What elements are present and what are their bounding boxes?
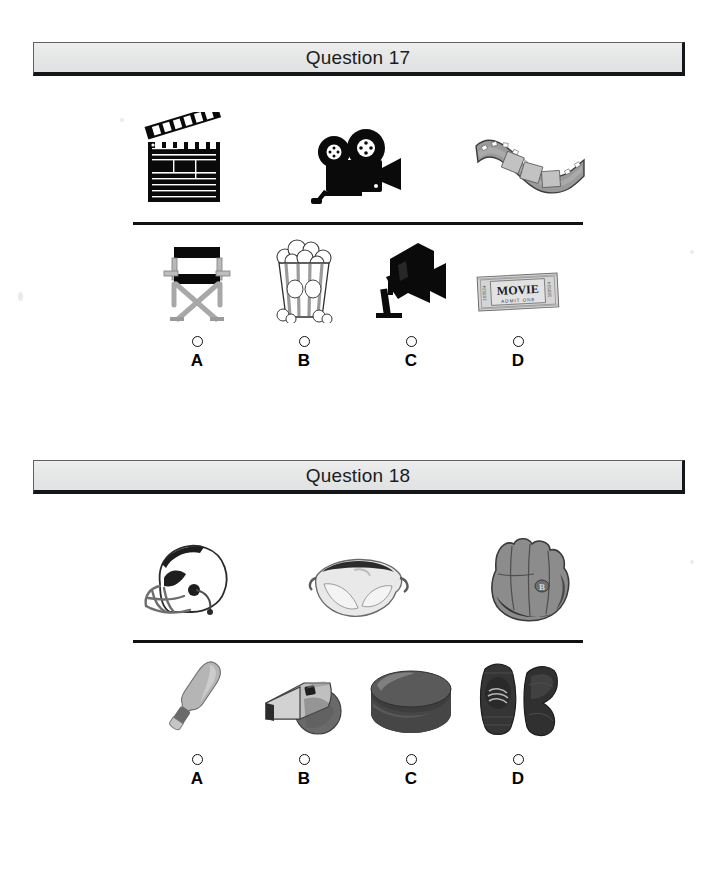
option-B[interactable]: B <box>251 655 358 787</box>
option-art-baseball-bat <box>160 655 234 741</box>
svg-text:163524: 163524 <box>546 281 552 297</box>
football-helmet-icon <box>134 534 238 626</box>
answer-bubble-A[interactable] <box>192 336 203 347</box>
prompt-item-film-strip <box>470 108 590 208</box>
prompt-item-safety-goggles <box>298 526 418 626</box>
option-letter-D: D <box>512 770 525 787</box>
option-D[interactable]: D <box>465 655 572 787</box>
option-art-studio-light <box>368 237 454 323</box>
option-art-directors-chair <box>158 237 236 323</box>
baseball-bat-icon <box>160 655 234 741</box>
option-letter-B: B <box>298 352 311 369</box>
clapperboard-icon <box>138 112 234 208</box>
answer-bubble-D[interactable] <box>513 754 524 765</box>
movie-ticket-icon: MOVIE ADMIT ONE 163524 163524 <box>472 263 564 323</box>
option-letter-A: A <box>191 770 204 787</box>
question-block-18: Question 18 <box>0 418 715 787</box>
popcorn-box-icon <box>267 237 341 323</box>
option-art-popcorn <box>267 237 341 323</box>
answer-bubble-D[interactable] <box>513 336 524 347</box>
option-C[interactable]: C <box>358 237 465 369</box>
options-row-17: A <box>0 237 715 369</box>
safety-goggles-icon <box>304 548 412 626</box>
prompt-item-baseball-glove: B <box>470 526 590 626</box>
question-title: Question 17 <box>306 48 411 67</box>
answer-bubble-C[interactable] <box>406 336 417 347</box>
section-divider <box>133 222 583 225</box>
option-letter-C: C <box>405 770 418 787</box>
directors-chair-icon <box>158 239 236 323</box>
question-header-18: Question 18 <box>33 460 685 494</box>
knee-pads-icon <box>473 655 563 741</box>
scan-artifact <box>690 560 694 564</box>
option-letter-D: D <box>512 352 525 369</box>
whistle-icon <box>260 669 348 741</box>
answer-bubble-A[interactable] <box>192 754 203 765</box>
prompt-item-clapperboard <box>126 108 246 208</box>
prompt-item-movie-camera <box>298 108 418 208</box>
scan-artifact <box>18 292 23 301</box>
question-block-17: Question 17 <box>0 0 715 369</box>
studio-light-icon <box>368 237 454 323</box>
option-B[interactable]: B <box>251 237 358 369</box>
answer-bubble-B[interactable] <box>299 336 310 347</box>
scan-artifact <box>120 118 124 122</box>
option-C[interactable]: C <box>358 655 465 787</box>
options-row-18: A B <box>0 655 715 787</box>
answer-bubble-B[interactable] <box>299 754 310 765</box>
option-letter-A: A <box>191 352 204 369</box>
prompt-row-17 <box>0 98 715 208</box>
baseball-glove-icon: B <box>482 534 578 626</box>
hockey-puck-icon <box>365 667 457 741</box>
option-A[interactable]: A <box>144 237 251 369</box>
option-art-hockey-puck <box>365 655 457 741</box>
answer-bubble-C[interactable] <box>406 754 417 765</box>
film-strip-icon <box>474 128 586 208</box>
ticket-main-text: MOVIE <box>497 282 540 298</box>
option-D[interactable]: MOVIE ADMIT ONE 163524 163524 D <box>465 237 572 369</box>
movie-camera-icon <box>306 120 410 208</box>
prompt-row-18: B <box>0 516 715 626</box>
option-art-knee-pads <box>473 655 563 741</box>
svg-text:B: B <box>538 582 544 592</box>
svg-text:163524: 163524 <box>482 285 488 301</box>
prompt-item-football-helmet <box>126 526 246 626</box>
option-art-whistle <box>260 655 348 741</box>
question-header-17: Question 17 <box>33 42 685 76</box>
question-title: Question 18 <box>306 466 411 485</box>
option-letter-B: B <box>298 770 311 787</box>
scan-artifact <box>690 250 694 254</box>
option-A[interactable]: A <box>144 655 251 787</box>
option-art-movie-ticket: MOVIE ADMIT ONE 163524 163524 <box>472 237 564 323</box>
section-divider <box>133 640 583 643</box>
option-letter-C: C <box>405 352 418 369</box>
